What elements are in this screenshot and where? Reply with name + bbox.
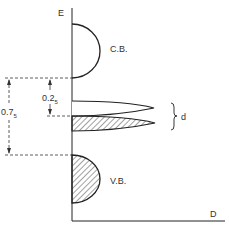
energy-axis-label: E: [58, 8, 64, 18]
large-gap-arrow-top-icon: [7, 79, 11, 85]
band-diagram-svg: E D C.B. d V.B. 0.75 0.25: [0, 0, 229, 226]
impurity-brace: [171, 103, 177, 130]
small-gap-arrow-top-icon: [48, 79, 52, 85]
valence-band-curve: [72, 155, 100, 203]
small-gap-arrow-bottom-icon: [48, 109, 52, 115]
lower-impurity-lobe: [72, 116, 155, 131]
upper-impurity-lobe: [72, 101, 154, 116]
conduction-band-label: C.B.: [110, 44, 128, 54]
large-gap-arrow-bottom-icon: [7, 148, 11, 154]
valence-band-label: V.B.: [110, 176, 126, 186]
impurity-brace-label: d: [181, 112, 186, 122]
conduction-band-curve: [72, 24, 100, 78]
band-diagram: E D C.B. d V.B. 0.75 0.25: [0, 0, 229, 226]
density-axis-label: D: [210, 209, 217, 219]
